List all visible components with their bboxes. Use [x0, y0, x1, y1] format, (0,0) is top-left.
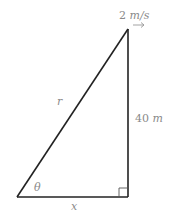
right-arrow-icon	[133, 23, 144, 28]
triangle	[17, 29, 128, 197]
triangle-diagram: 2 m/s 40 m r x θ	[0, 0, 173, 212]
velocity-label: 2 m/s	[119, 9, 150, 22]
hypotenuse-label: r	[57, 95, 63, 108]
angle-label: θ	[34, 181, 41, 194]
height-label: 40 m	[135, 112, 163, 125]
right-angle-marker	[119, 188, 128, 197]
base-label: x	[71, 200, 78, 212]
hypotenuse-line	[17, 29, 128, 197]
